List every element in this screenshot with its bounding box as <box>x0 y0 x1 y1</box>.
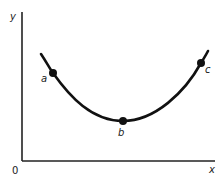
point-a-label: a <box>41 73 47 84</box>
origin-label: 0 <box>12 165 18 176</box>
point-b-label: b <box>118 127 124 138</box>
point-c-label: c <box>205 64 211 75</box>
point-c-marker <box>197 59 205 67</box>
u-curve <box>41 51 208 121</box>
y-axis-label: y <box>9 11 17 22</box>
point-a-marker <box>49 69 57 77</box>
point-b-marker <box>119 117 127 125</box>
u-curve-diagram: y x 0 a b c <box>0 0 222 176</box>
x-axis-label: x <box>208 164 215 175</box>
